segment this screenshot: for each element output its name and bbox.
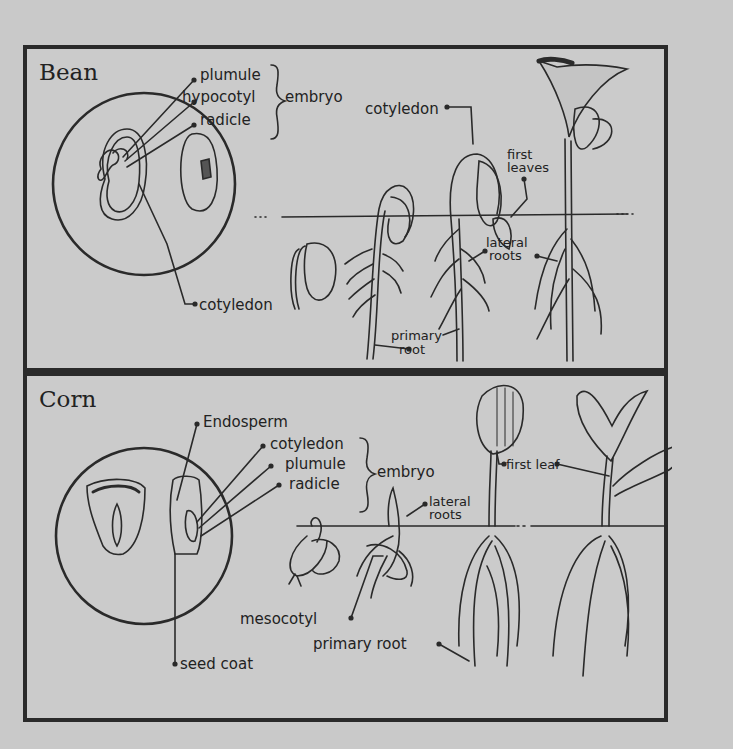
bean-closed-seed [181,133,218,210]
corn-stage-3 [489,451,497,526]
bean-label-radicle: radicle [200,112,251,128]
corn-stage-4 [602,456,613,526]
corn-label-mesocotyl: mesocotyl [240,611,317,627]
corn-second-leaf [613,446,672,496]
bean-label-first-leaves-2: leaves [507,161,549,174]
corn-label-plumule: plumule [285,456,346,472]
bean-label-seed-cotyledon: cotyledon [199,297,273,313]
corn-panel: Corn [23,372,668,722]
corn-label-lateral-roots-2: roots [429,508,462,521]
corn-label-seed-coat: seed coat [180,656,253,672]
bean-label-hypocotyl: hypocotyl [182,89,255,105]
corn-stage-2 [357,488,413,598]
bean-panel: Bean [23,45,668,372]
bean-label-cotyledon: cotyledon [365,101,439,117]
corn-label-embryo: embryo [377,464,435,480]
bean-stage-4 [565,139,573,361]
corn-label-endosperm: Endosperm [203,414,288,430]
corn-first-leaf [577,391,647,461]
bean-hilum [201,159,211,179]
bean-embryo-brace [271,65,285,139]
bean-label-plumule: plumule [200,67,261,83]
bean-label-primary-root-1: primary [391,329,442,342]
corn-label-first-leaf: first leaf [506,458,560,471]
corn-first-leaf-rolled [477,386,523,454]
corn-label-radicle: radicle [289,476,340,492]
bean-illustration [27,49,672,376]
corn-label-primary-root: primary root [313,636,407,652]
bean-label-embryo: embryo [285,89,343,105]
corn-label-cotyledon: cotyledon [270,436,344,452]
bean-soil-line [282,214,627,217]
corn-seed-magnifier [56,448,232,624]
bean-stage-1 [291,243,336,309]
bean-label-lateral-roots-2: roots [489,249,522,262]
bean-label-primary-root-2: root [399,343,425,356]
corn-embryo-brace [360,438,375,512]
corn-illustration [27,376,672,726]
bean-first-leaves [539,61,627,137]
corn-embryo [185,511,197,542]
